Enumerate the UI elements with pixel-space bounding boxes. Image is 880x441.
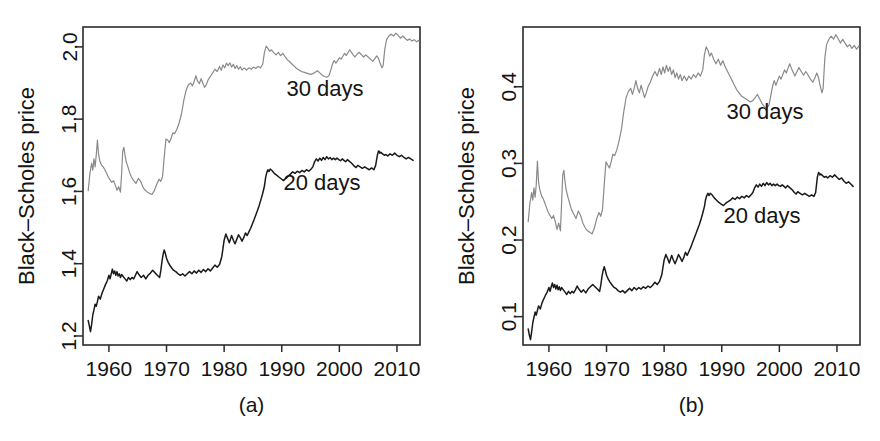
panel-a-yticklabel: 1.8 bbox=[58, 105, 81, 134]
panel-a: 1960197019801990200020101.21.41.61.82.0B… bbox=[0, 0, 440, 441]
panel-b-ylabel: Black–Scholes price bbox=[454, 87, 479, 285]
panel-b-yticklabel: 0.4 bbox=[498, 72, 521, 102]
panel-a-annotation-30-days: 30 days bbox=[286, 76, 363, 101]
panel-b-xticklabel: 2000 bbox=[756, 357, 803, 380]
panel-a-xticklabel: 2000 bbox=[316, 357, 363, 380]
panel-b-yticklabel: 0.1 bbox=[498, 302, 521, 331]
panel-a-frame bbox=[83, 27, 420, 345]
panel-a-xticklabel: 2010 bbox=[374, 357, 421, 380]
panel-b-annotation-30-days: 30 days bbox=[726, 99, 803, 124]
panel-b-caption: (b) bbox=[679, 393, 705, 416]
panel-b-yticklabel: 0.3 bbox=[498, 149, 521, 178]
panel-b-xticklabel: 1980 bbox=[641, 357, 688, 380]
panel-a-ylabel: Black–Scholes price bbox=[14, 87, 39, 285]
panel-a-series-20-days bbox=[88, 151, 413, 332]
panel-b-series-30-days bbox=[528, 35, 859, 234]
panel-a-xticklabel: 1970 bbox=[143, 357, 190, 380]
panel-b: 1960197019801990200020100.10.20.30.4Blac… bbox=[440, 0, 880, 441]
panel-b-xticklabel: 2010 bbox=[814, 357, 861, 380]
panel-b-svg: 1960197019801990200020100.10.20.30.4Blac… bbox=[440, 0, 880, 441]
panel-a-yticklabel: 1.2 bbox=[58, 321, 81, 350]
panel-b-yticklabel: 0.2 bbox=[498, 225, 521, 254]
panel-b-xticklabel: 1970 bbox=[583, 357, 630, 380]
panel-a-caption: (a) bbox=[239, 393, 265, 416]
figure-container: 1960197019801990200020101.21.41.61.82.0B… bbox=[0, 0, 880, 441]
panel-a-xticklabel: 1960 bbox=[86, 357, 133, 380]
panel-a-yticklabel: 1.4 bbox=[58, 249, 81, 279]
panel-a-svg: 1960197019801990200020101.21.41.61.82.0B… bbox=[0, 0, 440, 441]
panel-a-annotation-20-days: 20 days bbox=[284, 170, 361, 195]
panel-b-xticklabel: 1960 bbox=[526, 357, 573, 380]
panel-a-xticklabel: 1980 bbox=[201, 357, 248, 380]
panel-b-plot-area: 1960197019801990200020100.10.20.30.4Blac… bbox=[454, 27, 861, 416]
panel-a-yticklabel: 2.0 bbox=[58, 32, 81, 61]
panel-a-yticklabel: 1.6 bbox=[58, 177, 81, 206]
panel-a-plot-area: 1960197019801990200020101.21.41.61.82.0B… bbox=[14, 27, 421, 416]
panel-b-series-20-days bbox=[528, 173, 853, 340]
panel-b-xticklabel: 1990 bbox=[698, 357, 745, 380]
panel-b-frame bbox=[523, 27, 860, 345]
panel-b-annotation-20-days: 20 days bbox=[724, 203, 801, 228]
panel-a-xticklabel: 1990 bbox=[258, 357, 305, 380]
